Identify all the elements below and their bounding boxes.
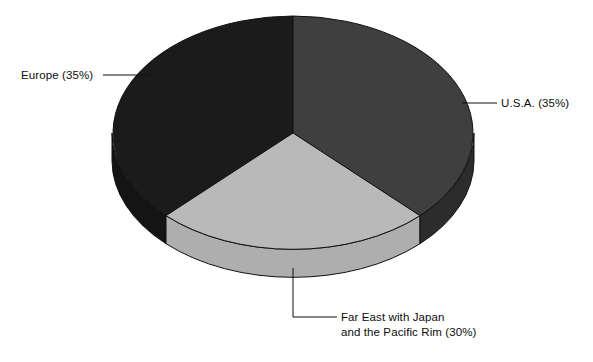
slice-label-usa: U.S.A. (35%) <box>501 96 569 111</box>
slice-label-usa-text: U.S.A. (35%) <box>501 96 569 111</box>
pie-chart-graphic <box>0 0 593 362</box>
slice-label-europe: Europe (35%) <box>21 68 93 83</box>
slice-label-far-east: Far East with Japan and the Pacific Rim … <box>341 310 476 339</box>
slice-label-far-east-text-line1: Far East with Japan <box>341 310 476 325</box>
slice-label-far-east-text-line2: and the Pacific Rim (30%) <box>341 325 476 340</box>
slice-label-europe-text: Europe (35%) <box>21 68 93 83</box>
pie-chart-figure: Europe (35%) U.S.A. (35%) Far East with … <box>0 0 593 362</box>
